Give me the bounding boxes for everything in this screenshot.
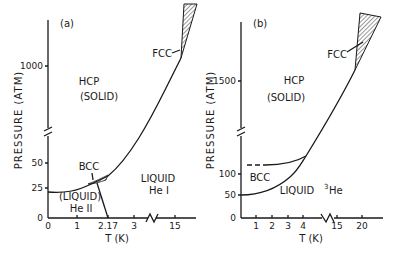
panel-a-helium4: (a) 1000 50 25 0 0 1 2.17 3 15 T (K) PRE… [13,4,197,244]
panel-a-liquid-label: LIQUID [141,173,176,184]
panel-a-ytick-0: 0 [37,213,43,223]
panel-b-xtick-2: 2 [269,221,275,231]
panel-a-xlabel: T (K) [104,233,129,244]
panel-b-xtick-1: 1 [253,221,259,231]
panel-b-hcp-label: HCP [284,75,305,86]
panel-b-bcc-boundary [265,156,306,165]
panel-a-xtick-1: 1 [74,221,80,231]
panel-b-element-label: He [329,185,343,196]
panel-b-isotope-label: 3 [324,183,328,191]
panel-b-xtick-20: 20 [356,221,368,231]
panel-b-xtick-4: 4 [300,221,306,231]
panel-b-ytick-50: 50 [225,190,237,200]
panel-a-xtick-3: 3 [131,221,137,231]
panel-a-xtick-0: 0 [45,221,51,231]
panel-a-ytick-50: 50 [32,158,44,168]
panel-a-fcc-label: FCC [152,48,172,59]
panel-a-label: (a) [60,18,74,29]
panel-b-bcc-label: BCC [250,172,271,183]
panel-b-fcc-label: FCC [327,49,347,60]
panel-a-he1-label: He I [149,185,169,196]
panel-b-ytick-100: 100 [219,169,236,179]
phase-diagrams: (a) 1000 50 25 0 0 1 2.17 3 15 T (K) PRE… [0,0,399,253]
panel-a-bcc-label: BCC [79,161,100,172]
panel-a-hcp-label: HCP [79,76,100,87]
panel-a-ylabel: PRESSURE (ATM) [13,71,24,169]
panel-b-helium3: (b) 1500 100 50 0 1 2 3 4 15 20 T (K) PR… [205,13,383,244]
panel-b-y-axis-break [237,127,245,136]
panel-b-ytick-0: 0 [230,213,236,223]
panel-b-xtick-15: 15 [331,221,342,231]
panel-b-label: (b) [253,18,267,29]
panel-a-ytick-25: 25 [32,183,43,193]
panel-a-y-axis-break [44,127,52,136]
panel-b-xtick-3: 3 [285,221,291,231]
panel-b-xlabel: T (K) [298,233,323,244]
panel-b-ylabel: PRESSURE (ATM) [205,71,216,169]
panel-a-ytick-1000: 1000 [20,61,43,71]
panel-b-solid-label: (SOLID) [267,92,305,103]
panel-a-xtick-2-17: 2.17 [98,221,118,231]
panel-b-ytick-1500: 1500 [213,76,236,86]
panel-a-bcc-region [88,175,108,184]
panel-a-liquid-he2-label: (LIQUID) [59,191,101,202]
panel-a-x-axis-break [146,214,158,222]
panel-b-liquid-label: LIQUID [280,185,315,196]
panel-a-he2-label: He II [70,203,93,214]
panel-a-fcc-region [181,4,197,58]
panel-b-fcc-region [355,13,381,70]
panel-a-xtick-15: 15 [169,221,180,231]
panel-a-solid-label: (SOLID) [80,91,118,102]
